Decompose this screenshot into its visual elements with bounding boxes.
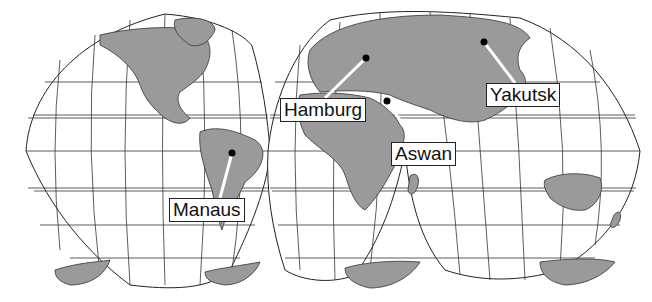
antarctica-west	[55, 260, 110, 285]
label-aswan: Aswan	[391, 142, 456, 166]
label-yakutsk: Yakutsk	[486, 83, 560, 107]
hamburg-marker	[363, 55, 370, 62]
manaus-marker	[229, 150, 236, 157]
antarctica-australia	[540, 259, 615, 285]
aswan-marker	[384, 98, 391, 105]
label-hamburg: Hamburg	[280, 98, 366, 122]
yakutsk-marker	[481, 39, 488, 46]
world-map	[0, 0, 652, 302]
label-manaus: Manaus	[169, 198, 245, 222]
antarctica-africa	[345, 261, 420, 288]
